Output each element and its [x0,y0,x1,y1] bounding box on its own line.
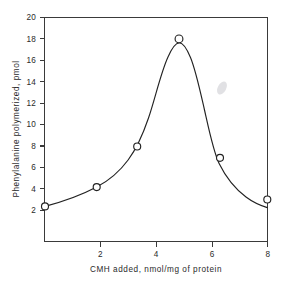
x-tick-labels: 2 4 6 8 [98,250,271,259]
data-point-marker [134,143,141,150]
axes-frame [45,17,269,242]
y-axis-title: Phenylalanine polymerized, pmol [12,60,21,197]
data-point-marker [264,196,271,203]
y-tick-marks [40,18,45,211]
data-point-marker [42,203,49,210]
y-tick-label: 16 [26,56,36,65]
data-point-markers [42,35,271,210]
y-tick-labels: 20 18 16 14 12 10 8 6 4 2 [26,13,36,215]
data-series-curve [45,43,267,208]
figure-panel: 20 18 16 14 12 10 8 6 4 2 2 4 6 8 [0,0,284,286]
scan-smudge-artifact [215,80,229,96]
x-tick-label: 2 [98,250,103,259]
chart-canvas: 20 18 16 14 12 10 8 6 4 2 2 4 6 8 [0,0,284,286]
y-tick-label: 10 [26,120,36,129]
y-tick-label: 18 [26,35,36,44]
x-axis-title: CMH added, nmol/mg of protein [90,265,222,274]
y-tick-label: 20 [26,13,36,22]
y-tick-label: 8 [31,142,36,151]
data-point-marker [175,35,183,43]
data-point-marker [217,154,224,161]
y-tick-label: 6 [31,163,36,172]
x-tick-label: 8 [266,250,271,259]
x-tick-label: 4 [154,250,159,259]
y-tick-label: 14 [26,78,36,87]
y-tick-label: 4 [31,185,36,194]
data-point-marker [93,184,100,191]
x-tick-marks [100,242,267,248]
x-tick-label: 6 [210,250,215,259]
y-tick-label: 2 [31,206,36,215]
y-tick-label: 12 [26,99,36,108]
